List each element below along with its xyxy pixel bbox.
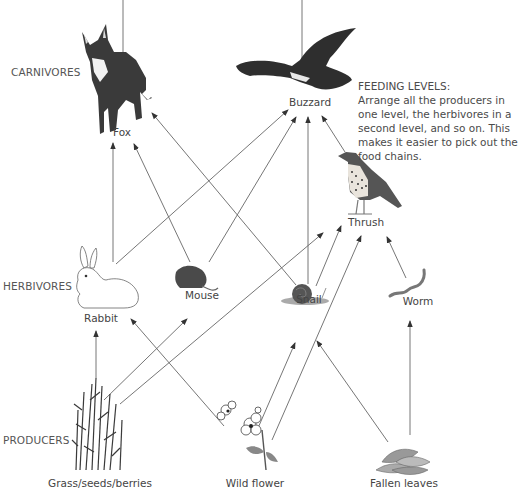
label-buzzard: Buzzard: [289, 96, 331, 108]
feeding-levels-note: FEEDING LEVELS: Arrange all the producer…: [358, 79, 518, 163]
wild-flower-icon: [217, 401, 278, 470]
level-label-carnivores: CARNIVORES: [11, 66, 81, 78]
fallen-leaves-icon: [376, 449, 430, 474]
worm-icon: [390, 270, 424, 296]
label-worm: Worm: [403, 295, 434, 307]
label-fallen-leaves: Fallen leaves: [370, 477, 438, 489]
note-body: Arrange all the producers in one level, …: [358, 94, 518, 162]
buzzard-icon: [236, 28, 356, 89]
label-grass: Grass/seeds/berries: [48, 477, 152, 489]
label-thrush: Thrush: [348, 216, 384, 228]
level-label-herbivores: HERBIVORES: [3, 280, 72, 292]
rabbit-icon: [77, 246, 139, 308]
fox-icon: [82, 24, 152, 134]
grass-icon: [72, 378, 122, 470]
note-title: FEEDING LEVELS:: [358, 79, 518, 93]
label-wild-flower: Wild flower: [226, 477, 284, 489]
label-rabbit: Rabbit: [84, 312, 118, 324]
level-label-producers: PRODUCERS: [3, 434, 70, 446]
mouse-icon: [175, 266, 218, 290]
label-mouse: Mouse: [185, 289, 219, 301]
label-snail: Snail: [296, 293, 322, 305]
label-fox: Fox: [113, 126, 131, 138]
